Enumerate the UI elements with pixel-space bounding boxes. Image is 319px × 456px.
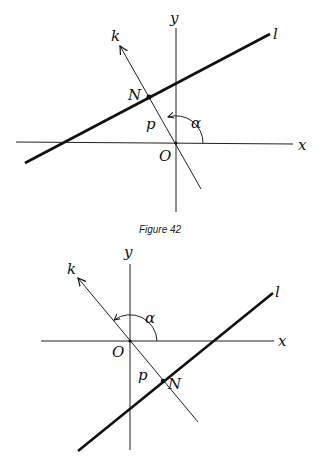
figure-caption: Figure 42 (139, 224, 182, 235)
label-x: x (298, 136, 307, 154)
label-o: O (159, 147, 171, 165)
label-p: p (138, 366, 148, 384)
figure-1: y k l N p α O x Figure 42 (16, 9, 307, 235)
line-l (78, 293, 273, 451)
figure-2: y k l α O p N x (41, 243, 287, 451)
label-p: p (146, 115, 156, 133)
x-axis (16, 142, 293, 144)
point-n (161, 379, 166, 384)
label-l: l (275, 283, 280, 301)
label-o: O (112, 343, 124, 361)
label-y: y (123, 243, 133, 261)
label-alpha: α (191, 114, 201, 132)
label-n: N (127, 86, 142, 104)
origin-point (128, 339, 131, 342)
label-k: k (111, 27, 120, 45)
label-alpha: α (145, 309, 155, 327)
point-n (147, 95, 152, 100)
origin-point (175, 142, 178, 145)
diagram-canvas: y k l N p α O x Figure 42 y k l α O p N … (0, 0, 319, 456)
normal-k (120, 46, 201, 189)
label-x: x (278, 332, 287, 350)
normal-k (78, 278, 198, 422)
label-l: l (273, 25, 278, 43)
label-n: N (167, 375, 182, 393)
label-y: y (169, 9, 179, 27)
label-k: k (67, 260, 76, 278)
